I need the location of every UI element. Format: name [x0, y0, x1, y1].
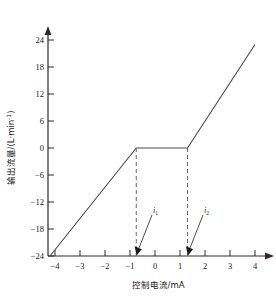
flow-current-characteristic-chart: 24 18 12 6 0 −6 −12 −18 −24 −4 −3 −2 — [0, 0, 276, 297]
i1-subscript: 1 — [155, 210, 158, 216]
y-tick-label: 24 — [36, 35, 45, 45]
y-tick-label: 0 — [40, 143, 44, 153]
y-tick-labels: 24 18 12 6 0 −6 −12 −18 −24 — [31, 35, 45, 261]
i1-arrow-shaft — [139, 215, 152, 248]
chart-canvas: 24 18 12 6 0 −6 −12 −18 −24 −4 −3 −2 — [0, 0, 276, 297]
x-axis-arrow-icon — [265, 253, 274, 260]
i1-arrow-head-icon — [135, 246, 142, 255]
x-tick-label: −1 — [125, 261, 134, 271]
x-tick-label: 2 — [203, 261, 207, 271]
y-tick-label: −24 — [31, 251, 45, 261]
x-tick-label: −3 — [75, 261, 84, 271]
y-axis-title-main: 输出流量/(L·min — [6, 120, 16, 186]
x-axis-title: 控制电流/mA — [132, 280, 185, 290]
y-axis-arrow-icon — [45, 26, 52, 35]
axes-group — [45, 26, 274, 259]
i2-annotation-label: i2 — [204, 206, 209, 216]
y-axis-title: 输出流量/(L·min-1) — [5, 111, 16, 186]
flow-characteristic-curve — [50, 45, 255, 257]
i2-arrow-head-icon — [186, 246, 193, 255]
i2-arrow-shaft — [190, 215, 203, 248]
x-tick-labels: −4 −3 −2 −1 0 1 2 3 4 — [50, 261, 257, 271]
x-tick-label: 4 — [253, 261, 258, 271]
y-tick-label: −6 — [35, 170, 44, 180]
y-tick-label: −18 — [31, 224, 44, 234]
y-tick-label: 18 — [36, 62, 45, 72]
y-tick-group — [48, 40, 54, 256]
x-tick-label: 0 — [153, 261, 157, 271]
x-tick-label: −4 — [50, 261, 60, 271]
dashed-reference-lines — [136, 148, 187, 256]
x-tick-group — [55, 250, 255, 256]
i1-annotation-label: i1 — [153, 206, 158, 216]
annotation-labels: i1 i2 — [153, 206, 209, 216]
data-series-group — [50, 45, 255, 257]
i2-subscript: 2 — [206, 210, 209, 216]
annotation-arrows — [135, 215, 203, 256]
x-tick-label: −2 — [100, 261, 109, 271]
y-axis-title-tail: ) — [6, 111, 16, 114]
y-tick-label: −12 — [31, 197, 44, 207]
y-tick-label: 6 — [40, 116, 44, 126]
y-tick-label: 12 — [36, 89, 45, 99]
x-tick-label: 3 — [228, 261, 232, 271]
x-tick-label: 1 — [178, 261, 182, 271]
